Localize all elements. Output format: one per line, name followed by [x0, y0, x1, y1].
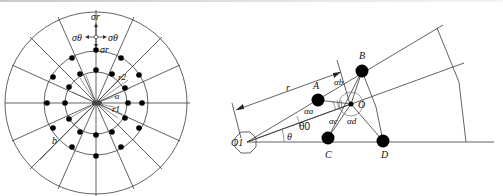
label-alpha-c: αc — [329, 116, 338, 126]
center-hole — [92, 101, 102, 106]
label-r1: r1 — [112, 104, 120, 114]
outer-boundary — [437, 28, 466, 142]
diagram-canvas: σr σθ σθ σr r2 a r1 b — [0, 0, 503, 196]
label-theta: θ — [287, 131, 292, 142]
node-D — [377, 135, 390, 148]
label-r: r — [286, 82, 290, 93]
label-sigma-theta-left: σθ — [72, 32, 82, 43]
label-alpha-a: αa — [304, 106, 314, 116]
node-A — [312, 94, 325, 107]
label-r2: r2 — [118, 72, 127, 82]
label-b: b — [52, 135, 57, 146]
label-alpha-b: αb — [334, 77, 344, 87]
label-sigma-r-top: σr — [91, 11, 100, 22]
center-fan — [40, 74, 130, 160]
label-sigma-theta-right: σθ — [108, 32, 118, 43]
theta-arc — [282, 129, 284, 142]
right-geometry-diagram: O1 O A B C D r θ θ0 αa αb αc αd — [231, 25, 494, 160]
node-O — [349, 102, 354, 107]
label-A: A — [312, 80, 320, 91]
label-sigma-r-inner: σr — [100, 44, 109, 55]
label-C: C — [325, 149, 332, 160]
label-a: a — [115, 91, 120, 101]
node-C — [322, 132, 335, 145]
label-theta0: θ0 — [299, 121, 311, 132]
ray-upper — [247, 25, 443, 142]
label-O: O — [358, 99, 365, 110]
label-O1: O1 — [231, 137, 243, 148]
label-alpha-d: αd — [347, 116, 357, 126]
left-radial-diagram: σr σθ σθ σr r2 a r1 b — [5, 10, 190, 196]
label-D: D — [380, 149, 389, 160]
label-B: B — [359, 50, 365, 61]
node-B — [356, 65, 369, 78]
